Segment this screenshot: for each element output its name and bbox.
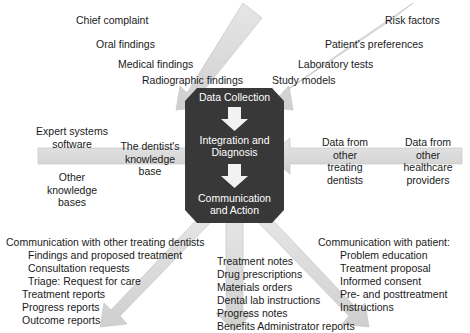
input-label-risk-factors: Risk factors <box>385 14 440 27</box>
output-item-findings-proposed-treatment: Findings and proposed treatment <box>28 249 182 262</box>
input-label-oral-findings: Oral findings <box>96 38 155 51</box>
output-item-problem-education: Problem education <box>340 249 428 262</box>
label-other-knowledge-bases: Other knowledge bases <box>36 171 108 209</box>
output-item-progress-notes: Progress notes <box>217 307 288 320</box>
output-item-outcome-reports: Outcome reports <box>22 314 100 327</box>
output-item-consultation-requests: Consultation requests <box>28 262 130 275</box>
output-item-progress-reports: Progress reports <box>22 301 100 314</box>
input-label-laboratory-tests: Laboratory tests <box>298 58 373 71</box>
output-item-instructions: Instructions <box>340 301 394 314</box>
output-item-benefits-administrator-reports: Benefits Administrator reports <box>217 320 355 333</box>
input-label-medical-findings: Medical findings <box>118 58 193 71</box>
input-label-radiographic-findings: Radiographic findings <box>142 74 243 87</box>
diagram-canvas: Data Collection Integration and Diagnosi… <box>0 0 470 333</box>
label-dentists-knowledge-base: The dentist's knowledge base <box>110 140 190 178</box>
label-expert-systems-software: Expert systems software <box>26 125 118 150</box>
core-stage-communication-action: Communication and Action <box>185 192 284 216</box>
core-stage-data-collection: Data Collection <box>185 91 284 103</box>
output-item-informed-consent: Informed consent <box>340 275 421 288</box>
input-label-patients-preferences: Patient's preferences <box>325 38 423 51</box>
output-heading-other-treating-dentists: Communication with other treating dentis… <box>6 236 204 249</box>
core-stage-integration-diagnosis: Integration and Diagnosis <box>185 134 284 158</box>
input-label-study-models: Study models <box>272 74 336 87</box>
output-item-pre-and-posttreatment: Pre- and posttreatment <box>340 288 447 301</box>
output-item-drug-prescriptions: Drug prescriptions <box>217 268 302 281</box>
output-item-triage-request-for-care: Triage: Request for care <box>28 275 141 288</box>
output-item-materials-orders: Materials orders <box>217 281 292 294</box>
core-down-arrow-2 <box>185 162 284 190</box>
output-item-treatment-notes: Treatment notes <box>217 255 293 268</box>
core-down-arrow-1 <box>185 106 284 132</box>
output-heading-communication-with-patient: Communication with patient: <box>318 236 450 249</box>
output-item-dental-lab-instructions: Dental lab instructions <box>217 294 320 307</box>
input-label-chief-complaint: Chief complaint <box>76 14 148 27</box>
output-item-treatment-proposal: Treatment proposal <box>340 262 431 275</box>
label-data-other-treating-dentists: Data from other treating dentists <box>312 136 378 186</box>
label-data-other-healthcare-providers: Data from other healthcare providers <box>392 136 464 186</box>
output-item-treatment-reports: Treatment reports <box>22 288 105 301</box>
